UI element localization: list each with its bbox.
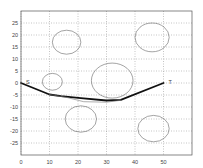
y-tick-label: -15 bbox=[10, 116, 18, 122]
y-tick-label: 0 bbox=[15, 80, 18, 86]
obstacle-circle bbox=[42, 73, 62, 90]
obstacles bbox=[42, 23, 169, 142]
y-tick-label: -20 bbox=[10, 128, 18, 134]
obstacle-circle bbox=[91, 63, 133, 98]
y-tick-label: 25 bbox=[12, 20, 18, 26]
x-tick-label: 50 bbox=[160, 159, 166, 165]
y-tick-label: -25 bbox=[10, 140, 18, 146]
y-tick-label: 15 bbox=[12, 44, 18, 50]
y-tick-label: -5 bbox=[13, 92, 18, 98]
start-label: S bbox=[26, 79, 30, 85]
x-tick-label: 40 bbox=[132, 159, 138, 165]
x-tick-label: 0 bbox=[19, 159, 22, 165]
obstacle-circle bbox=[52, 30, 81, 54]
y-tick-label: 20 bbox=[12, 32, 18, 38]
y-tick-label: 5 bbox=[15, 68, 18, 74]
obstacle-circle bbox=[138, 115, 169, 141]
grid-lines bbox=[21, 11, 192, 155]
x-tick-label: 10 bbox=[46, 159, 52, 165]
path-planning-plot: 010203040502520151050-5-10-15-20-25 ST bbox=[0, 0, 203, 168]
y-tick-label: -10 bbox=[10, 104, 18, 110]
x-tick-label: 20 bbox=[75, 159, 81, 165]
target-label: T bbox=[169, 79, 173, 85]
y-tick-label: 10 bbox=[12, 56, 18, 62]
x-tick-label: 30 bbox=[103, 159, 109, 165]
obstacle-circle bbox=[135, 23, 169, 52]
annotations: ST bbox=[26, 79, 173, 85]
